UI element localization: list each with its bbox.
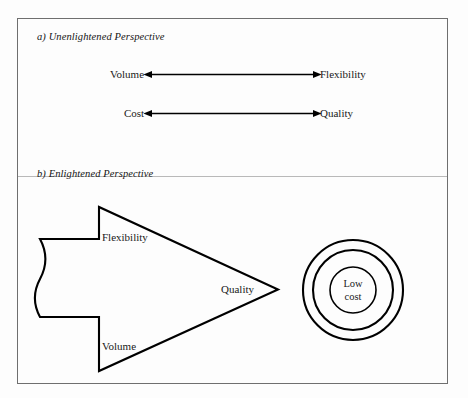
panel-a-heading: a) Unenlightened Perspective bbox=[37, 31, 165, 43]
tradeoff-label-volume: Volume bbox=[110, 68, 144, 80]
tradeoff-label-flexibility: Flexibility bbox=[320, 68, 366, 80]
arrow-label-quality: Quality bbox=[221, 283, 254, 295]
figure-container: a) Unenlightened Perspective Volume Flex… bbox=[0, 0, 468, 398]
tradeoff-label-quality: Quality bbox=[320, 107, 353, 119]
target-center-label-line2: cost bbox=[333, 291, 373, 303]
target-center-label-line1: Low bbox=[333, 278, 373, 290]
arrow-label-flexibility: Flexibility bbox=[102, 231, 148, 243]
figure-drawing bbox=[0, 0, 468, 398]
tradeoff-label-cost: Cost bbox=[124, 107, 144, 119]
panel-b-heading: b) Enlightened Perspective bbox=[37, 168, 153, 180]
arrow-label-volume: Volume bbox=[102, 340, 136, 352]
